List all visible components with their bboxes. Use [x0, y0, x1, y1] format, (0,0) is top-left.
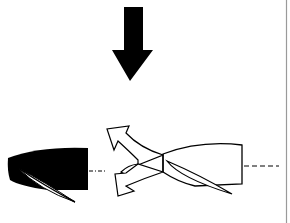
white-nacelle [163, 144, 242, 194]
black-nacelle [8, 148, 88, 202]
down-arrow-icon [112, 7, 153, 81]
three-way-flow-arrow-lower [115, 164, 163, 196]
diagram-canvas [0, 0, 290, 223]
